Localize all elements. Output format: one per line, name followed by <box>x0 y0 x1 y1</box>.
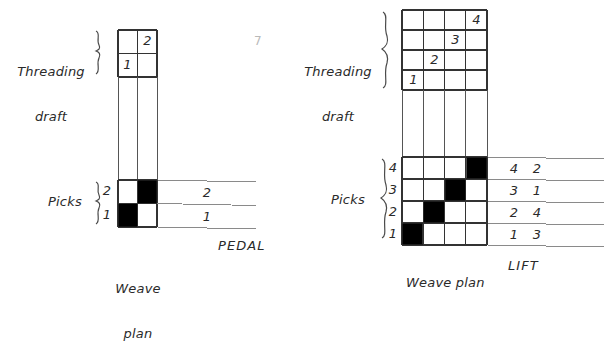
right-threading-cell-r4c1: 1 <box>403 73 424 86</box>
right-lift-row4-second: 3 <box>528 228 546 241</box>
left-threading-draft-label-line2: draft <box>10 110 92 125</box>
right-filled-r4c1 <box>403 224 423 245</box>
right-filled-r2c3 <box>445 180 465 201</box>
right-threading-draft-label: Threading draft <box>296 35 380 155</box>
left-threading-draft-brace <box>96 31 100 74</box>
left-threading-draft-label-line1: Threading <box>10 65 92 80</box>
left-pick-label-row1: 2 <box>100 184 114 197</box>
left-threading-draft-label: Threading draft <box>10 35 92 155</box>
right-lift-row1-second: 2 <box>528 162 546 175</box>
right-lift-row3-first: 2 <box>505 206 523 219</box>
left-pedal-value-row2: 1 <box>198 210 216 223</box>
right-lift-row3-second: 4 <box>528 206 546 219</box>
left-threading-cell-r2c1: 1 <box>118 58 137 71</box>
right-lift-row2-first: 3 <box>505 184 523 197</box>
right-lift-row2-second: 1 <box>528 184 546 197</box>
right-lift-row4-first: 1 <box>505 228 523 241</box>
right-pick-label-row1: 4 <box>386 161 400 174</box>
left-weave-plan-label: Weave plan <box>103 252 173 345</box>
right-threading-draft-label-line1: Threading <box>296 65 380 80</box>
right-pick-label-row4: 1 <box>386 227 400 240</box>
right-lift-header: LIFT <box>508 258 539 273</box>
right-picks-label: Picks <box>331 193 365 208</box>
right-warp-column-lines <box>402 90 487 157</box>
left-weave-plan-label-line1: Weave <box>103 282 173 297</box>
right-threading-cell-r3c2: 2 <box>424 53 445 66</box>
left-picks-label: Picks <box>48 195 82 210</box>
right-filled-r3c2 <box>424 202 444 223</box>
left-filled-r1c2 <box>138 181 157 204</box>
left-weave-plan-label-line2: plan <box>103 327 173 342</box>
left-pick-label-row2: 1 <box>100 208 114 221</box>
left-pedal-value-row1: 2 <box>198 186 216 199</box>
left-pedal-header: PEDAL <box>218 238 266 253</box>
right-threading-cell-r1c4: 4 <box>466 13 487 26</box>
left-warp-column-lines <box>118 77 157 180</box>
right-filled-r1c4 <box>466 158 486 179</box>
right-pick-label-row3: 2 <box>386 205 400 218</box>
right-threading-cell-r2c3: 3 <box>445 33 466 46</box>
right-threading-draft-brace <box>382 12 388 88</box>
left-threading-cell-r1c2: 2 <box>138 34 157 47</box>
right-lift-row1-first: 4 <box>505 162 523 175</box>
right-pick-label-row2: 3 <box>386 183 400 196</box>
left-filled-r2c1 <box>119 204 138 227</box>
right-threading-draft-label-line2: draft <box>296 110 380 125</box>
stray-page-number: 7 <box>254 34 262 48</box>
right-weave-plan-label: Weave plan <box>406 276 485 291</box>
